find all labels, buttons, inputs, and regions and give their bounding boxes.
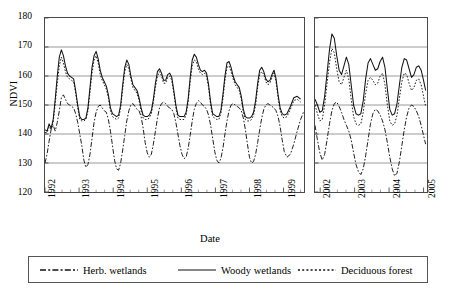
series-line-woody-wetlands [45,50,301,131]
legend-item: Woody wetlands [177,262,291,278]
series-line-herb-wetlands [315,102,426,176]
legend-item: Herb. wetlands [39,262,147,278]
legend-swatch-dotted-icon [297,265,337,275]
x-tick-label: 2003 [358,179,367,198]
y-tick-label: 150 [6,100,32,109]
x-tick-label: 1994 [117,179,126,198]
series-line-herb-wetlands [45,95,304,170]
x-tick-label: 1996 [185,179,194,198]
legend-label: Woody wetlands [221,265,291,276]
chart-panel-left [44,17,305,193]
x-tick-label: 1999 [288,179,297,198]
x-tick-label: 1997 [220,179,229,198]
x-tick-label: 1992 [48,179,57,198]
legend-item: Deciduous forest [297,262,412,278]
y-tick-label: 160 [6,71,32,80]
y-axis-tick-labels: 180170160150140130120 [4,0,32,293]
x-tick-label: 2002 [323,179,332,198]
x-axis-title: Date [150,233,270,244]
x-tick-label: 2005 [428,179,437,198]
y-tick-label: 120 [6,188,32,197]
legend-swatch-solid-icon [177,265,217,275]
x-tick-label: 2004 [393,179,402,198]
ndvi-time-series-figure: NDVI 180170160150140130120 1992199319941… [0,0,457,293]
chart-legend: Herb. wetlandsWoody wetlandsDeciduous fo… [28,256,428,283]
y-tick-label: 170 [6,41,32,50]
x-tick-label: 1993 [82,179,91,198]
chart-panel-right [314,17,428,193]
x-tick-label: 1995 [151,179,160,198]
legend-label: Deciduous forest [341,265,412,276]
legend-label: Herb. wetlands [83,265,147,276]
x-tick-label: 1998 [254,179,263,198]
y-tick-label: 180 [6,12,32,21]
y-tick-label: 130 [6,159,32,168]
legend-swatch-dash-dot-icon [39,265,79,275]
series-line-woody-wetlands [315,34,426,115]
y-tick-label: 140 [6,129,32,138]
